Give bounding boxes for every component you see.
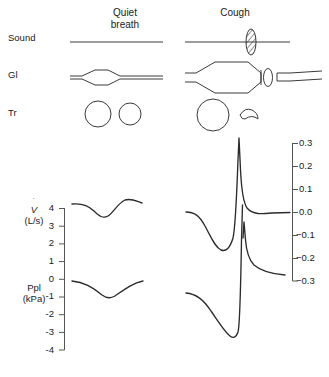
trachea-quiet-diagram <box>85 101 141 127</box>
trachea-collapsed-crescent-cough <box>240 109 258 119</box>
trachea-circle-cough <box>197 99 229 131</box>
glottis-quiet-diagram <box>70 70 163 85</box>
trachea-cough-diagram <box>197 99 258 131</box>
sound-burst-hatched-ellipse-icon <box>246 29 256 55</box>
figure-graphics <box>0 0 329 377</box>
right-axis <box>293 143 299 281</box>
left-axis <box>59 208 65 350</box>
trachea-circle-quiet-2 <box>119 103 141 125</box>
glottis-cough-diagram <box>185 62 322 93</box>
trace-flow-cough-secondary-spike <box>243 222 285 275</box>
trace-flow-quiet <box>72 199 142 217</box>
trace-flow-cough <box>186 138 290 251</box>
trace-ppl-quiet <box>72 281 143 298</box>
trachea-circle-quiet-1 <box>85 101 111 127</box>
respiratory-cough-figure: Quiet breath Cough Sound Gl Tr ˙ V (L/s)… <box>0 0 329 377</box>
